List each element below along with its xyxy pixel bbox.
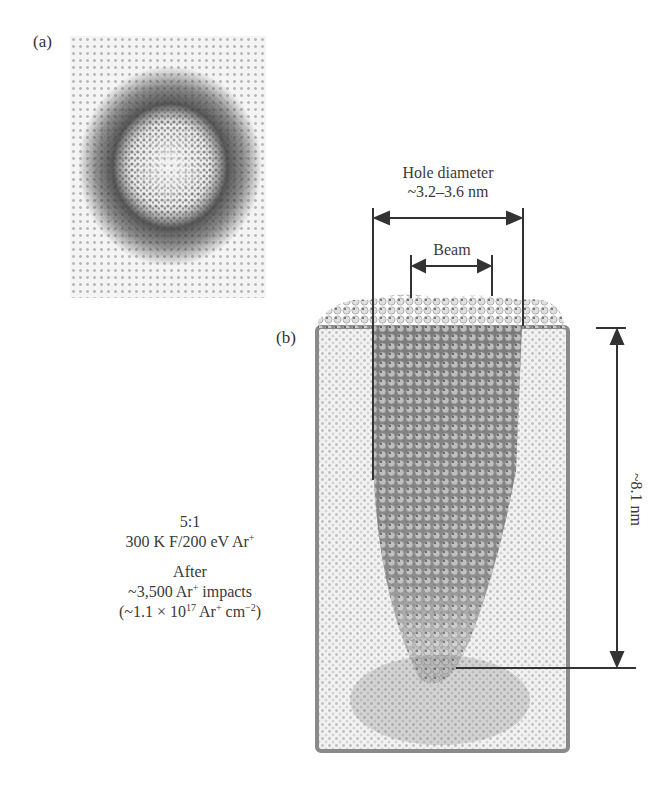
caption-fluence: (~1.1 × 1017 Ar+ cm−2) [70,602,310,622]
hole-diameter-title: Hole diameter [383,163,513,182]
panel-b-overlay [0,0,672,792]
caption-impacts: ~3,500 Ar+ impacts [70,582,310,602]
hole-diameter-value: ~3.2–3.6 nm [383,182,513,201]
simulation-caption: 5:1 300 K F/200 eV Ar+ After ~3,500 Ar+ … [70,512,310,622]
caption-conditions: 300 K F/200 eV Ar+ [70,532,310,552]
caption-after: After [70,562,310,582]
depth-label: ~8.1 nm [627,460,646,540]
beam-label: Beam [421,240,483,259]
hole-diameter-label: Hole diameter ~3.2–3.6 nm [383,163,513,201]
beam-dimension [411,255,492,298]
surface-layer [318,294,566,328]
caption-ratio: 5:1 [70,512,310,532]
